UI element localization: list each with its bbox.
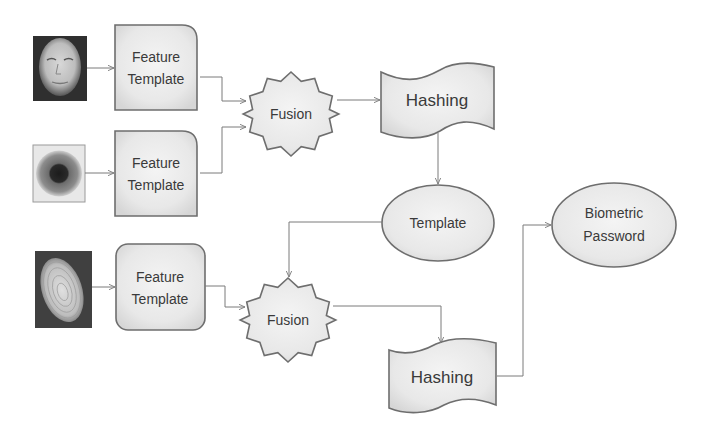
hashing-2-label: Hashing bbox=[411, 368, 473, 387]
biometric-password-line1: Biometric bbox=[585, 205, 643, 221]
biometric-flow-diagram: Feature Template Feature Template Featur… bbox=[0, 0, 705, 435]
edge-fusion2-to-hashing2 bbox=[333, 306, 441, 343]
edge-hashing2-to-password bbox=[497, 225, 551, 376]
fusion-node-1: Fusion bbox=[243, 72, 339, 156]
edge-template-to-fusion2 bbox=[289, 222, 382, 277]
feature-template-node-1: Feature Template bbox=[115, 25, 197, 110]
edge-template3-to-fusion2 bbox=[205, 286, 245, 307]
hashing-1-label: Hashing bbox=[406, 91, 468, 110]
feature-template-3-line2: Template bbox=[132, 291, 189, 307]
fusion-node-2: Fusion bbox=[240, 278, 336, 362]
fusion-2-label: Fusion bbox=[267, 312, 309, 328]
feature-template-node-2: Feature Template bbox=[115, 131, 197, 216]
feature-template-1-line1: Feature bbox=[132, 49, 180, 65]
biometric-password-node: Biometric Password bbox=[552, 183, 676, 267]
hashing-node-1: Hashing bbox=[381, 63, 494, 138]
edge-template1-to-fusion1 bbox=[200, 77, 246, 101]
hashing-node-2: Hashing bbox=[389, 339, 496, 413]
feature-template-1-line2: Template bbox=[128, 71, 185, 87]
fusion-1-label: Fusion bbox=[270, 106, 312, 122]
feature-template-2-line1: Feature bbox=[132, 155, 180, 171]
template-node: Template bbox=[382, 185, 494, 261]
fingerprint-image bbox=[33, 251, 92, 328]
template-label: Template bbox=[410, 215, 467, 231]
feature-template-node-3: Feature Template bbox=[116, 244, 205, 330]
feature-template-2-line2: Template bbox=[128, 177, 185, 193]
feature-template-3-line1: Feature bbox=[136, 269, 184, 285]
face-image bbox=[33, 36, 87, 101]
biometric-password-line2: Password bbox=[583, 228, 644, 244]
iris-image bbox=[33, 145, 85, 202]
edge-template2-to-fusion1 bbox=[200, 127, 246, 173]
